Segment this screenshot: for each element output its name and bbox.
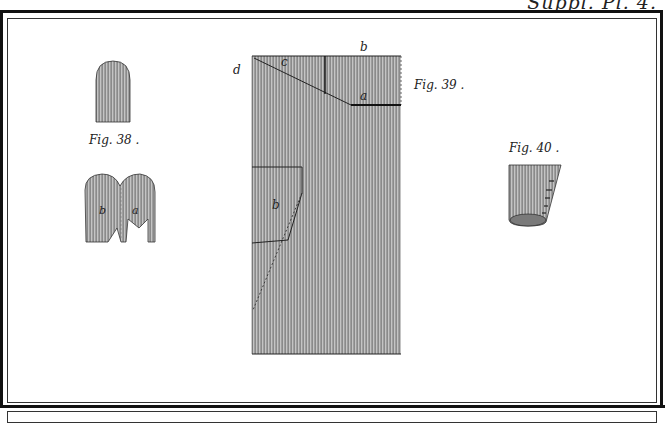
fig39-caption: Fig. 39 .: [414, 78, 464, 92]
fig38-label-b: b: [99, 204, 106, 217]
fig39-label-top-b: b: [360, 40, 368, 54]
fig39-label-d: d: [233, 63, 241, 77]
fig39-label-c: c: [281, 55, 288, 69]
fig38-bottom-piece: [85, 174, 155, 242]
fig38-top-piece: [96, 61, 130, 122]
fig40-caption: Fig. 40 .: [509, 141, 559, 155]
fig38-caption: Fig. 38 .: [89, 133, 139, 147]
fig40-cone: [509, 165, 561, 226]
fig38-label-a: a: [132, 204, 139, 217]
fig39-label-inner-b: b: [272, 198, 280, 212]
fig39-label-a: a: [360, 89, 367, 103]
